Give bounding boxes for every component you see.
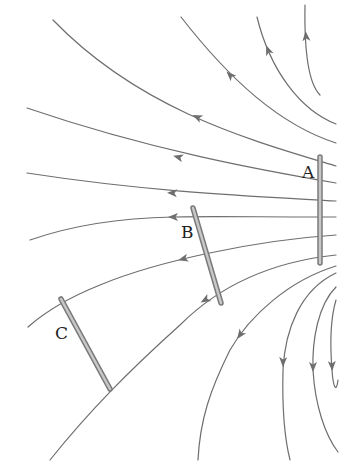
arrowhead-icon [172, 152, 184, 162]
plate-labels-group: ABC [55, 162, 315, 343]
field-line [283, 273, 336, 460]
field-line [27, 108, 336, 183]
field-line [313, 287, 338, 452]
field-diagram: ABC [0, 0, 363, 471]
arrowhead-icon [177, 254, 189, 264]
arrowhead-icon [224, 69, 237, 82]
field-diagram-canvas: ABC [0, 0, 363, 471]
field-line [331, 300, 338, 387]
plate-label-b: B [181, 222, 194, 242]
field-line [27, 173, 336, 201]
arrowhead-icon [199, 294, 212, 306]
arrowhead-icon [191, 111, 203, 122]
arrowhead-icon [262, 44, 273, 56]
plate-label-a: A [301, 162, 315, 182]
arrowhead-icon [279, 357, 287, 367]
plate-c [61, 299, 110, 389]
field-line [305, 5, 320, 95]
field-line [181, 17, 336, 143]
field-line [28, 235, 336, 327]
arrowhead-icon [234, 329, 246, 342]
field-line [257, 17, 336, 124]
plate-label-c: C [55, 323, 68, 343]
